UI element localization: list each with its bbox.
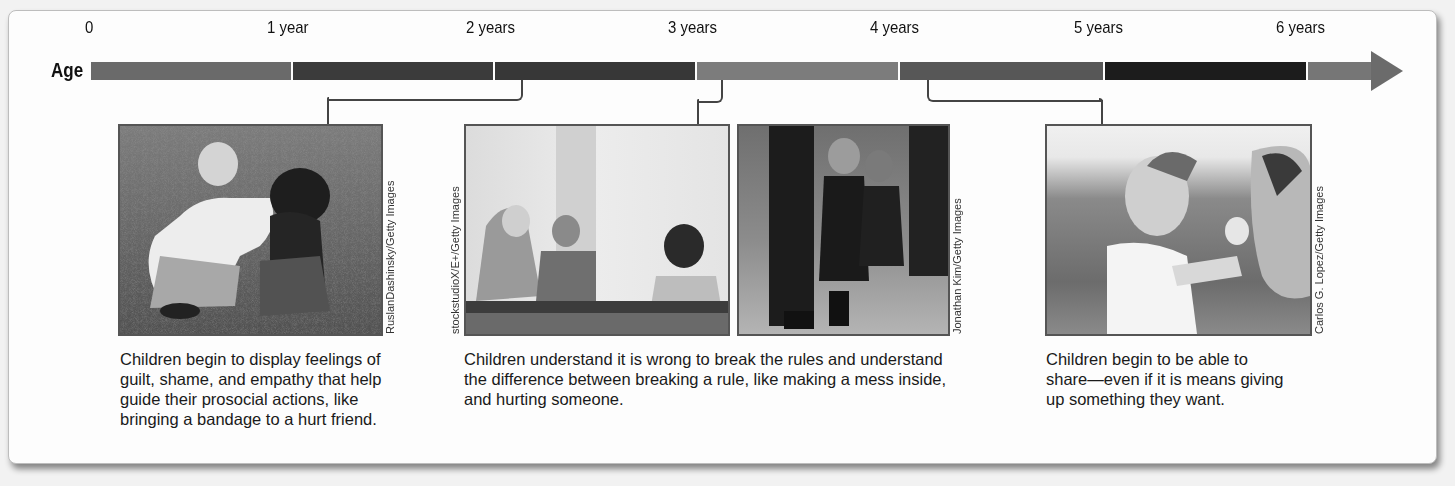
photo-illustration — [1047, 126, 1310, 334]
photo-empathy-children — [118, 124, 383, 336]
caption-sharing: Children begin to be able to share—even … — [1046, 349, 1284, 409]
tick-label-4-years: 4 years — [870, 18, 919, 38]
caption-line: Children begin to be able to — [1046, 349, 1284, 369]
age-bar-segment-1-2 — [293, 62, 493, 80]
age-bar-segment-3-4 — [697, 62, 898, 80]
connector-line-3 — [927, 80, 1103, 102]
age-bar-segment-0-1 — [91, 62, 291, 80]
connector-line-2 — [697, 80, 723, 103]
caption-line: guilt, shame, and empathy that help — [120, 369, 381, 389]
tick-label-5-years: 5 years — [1074, 18, 1123, 38]
caption-line: guide their prosocial actions, like — [120, 389, 381, 409]
age-axis-label: Age — [51, 59, 83, 82]
connector-line-1 — [327, 80, 523, 101]
connector-line-1b — [327, 97, 329, 126]
tick-label-0: 0 — [85, 18, 93, 38]
photo-credit-3: Carlos G. Lopez/Getty Images — [1313, 124, 1325, 334]
connector-line-3b — [1099, 98, 1103, 126]
caption-line: up something they want. — [1046, 389, 1284, 409]
photo-credit-2b: Jonathan Kim/Getty Images — [951, 124, 963, 334]
tick-label-6-years: 6 years — [1276, 18, 1325, 38]
photo-children-line — [737, 124, 950, 336]
tick-label-1-year: 1 year — [267, 18, 309, 38]
photo-illustration — [739, 126, 948, 334]
caption-empathy: Children begin to display feelings of gu… — [120, 349, 381, 429]
photo-sharing-ice-cream — [1045, 124, 1312, 336]
photo-credit-1: RuslanDashinsky/Getty Images — [384, 124, 396, 334]
tick-label-3-years: 3 years — [668, 18, 717, 38]
caption-line: share—even if it is means giving — [1046, 369, 1284, 389]
photo-credit-2a: stockstudioX/E+/Getty Images — [449, 124, 461, 334]
caption-line: Children begin to display feelings of — [120, 349, 381, 369]
age-bar-segment-2-3 — [495, 62, 695, 80]
age-bar-segment-5-6 — [1105, 62, 1306, 80]
age-bar-segment-6-plus — [1308, 62, 1372, 80]
age-bar-segment-4-5 — [900, 62, 1103, 80]
caption-line: the difference between breaking a rule, … — [464, 369, 946, 389]
photo-illustration — [120, 126, 381, 334]
connector-line-2b — [697, 99, 699, 126]
caption-line: Children understand it is wrong to break… — [464, 349, 946, 369]
caption-rules: Children understand it is wrong to break… — [464, 349, 946, 409]
arrowhead-icon — [1371, 51, 1403, 91]
photo-rules-table — [464, 124, 730, 336]
caption-line: and hurting someone. — [464, 389, 946, 409]
photo-illustration — [466, 126, 728, 334]
tick-label-2-years: 2 years — [466, 18, 515, 38]
timeline-figure: 0 1 year 2 years 3 years 4 years 5 years… — [8, 10, 1437, 464]
caption-line: bringing a bandage to a hurt friend. — [120, 409, 381, 429]
